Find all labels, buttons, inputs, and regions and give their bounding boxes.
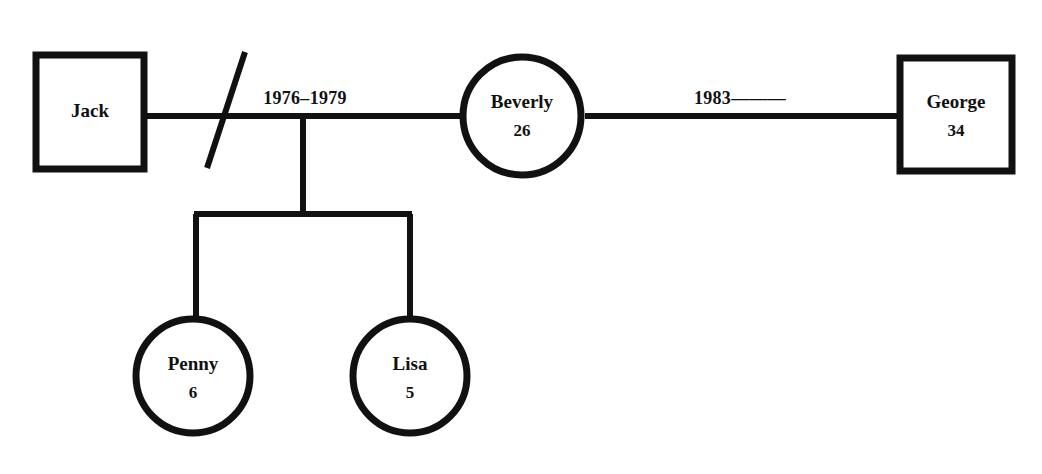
person-name-penny: Penny bbox=[168, 353, 219, 374]
genogram-canvas: Jack Beverly 26 George 34 Penny 6 Lisa 5… bbox=[0, 0, 1042, 474]
divorce-slash-icon bbox=[207, 52, 245, 168]
person-age-penny: 6 bbox=[189, 383, 198, 402]
person-node-lisa[interactable] bbox=[353, 319, 467, 433]
person-node-george[interactable] bbox=[900, 58, 1012, 171]
relationship-label-jack-beverly: 1976–1979 bbox=[263, 88, 347, 108]
person-age-beverly: 26 bbox=[514, 121, 531, 140]
person-age-george: 34 bbox=[948, 121, 966, 140]
person-node-beverly[interactable] bbox=[463, 57, 581, 175]
person-name-george: George bbox=[926, 91, 985, 112]
person-name-beverly: Beverly bbox=[491, 91, 554, 112]
person-name-lisa: Lisa bbox=[393, 353, 428, 374]
person-age-lisa: 5 bbox=[406, 383, 415, 402]
person-node-penny[interactable] bbox=[136, 319, 250, 433]
genogram-diagram: Jack Beverly 26 George 34 Penny 6 Lisa 5… bbox=[0, 0, 1042, 474]
relationship-label-beverly-george: 1983——— bbox=[694, 88, 787, 108]
person-name-jack: Jack bbox=[71, 100, 109, 121]
